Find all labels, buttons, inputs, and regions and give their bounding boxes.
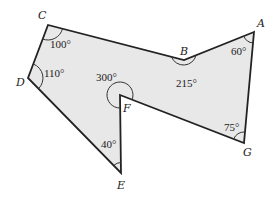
angle-label-a: 60° <box>231 45 246 57</box>
vertex-label-b: B <box>179 45 188 58</box>
vertex-label-a: A <box>256 17 265 30</box>
polygon-diagram: A B C D E F G 60° 215° 100° 110° 40° 300… <box>0 0 278 198</box>
vertex-label-e: E <box>116 179 125 192</box>
angle-label-e: 40° <box>101 138 116 150</box>
vertex-label-f: F <box>122 102 131 115</box>
vertex-label-d: D <box>15 76 25 89</box>
angle-label-b: 215° <box>176 77 197 89</box>
angle-label-f: 300° <box>96 71 117 83</box>
vertex-label-g: G <box>243 146 252 159</box>
vertex-label-c: C <box>38 9 47 22</box>
angle-label-g: 75° <box>224 121 239 133</box>
angle-label-d: 110° <box>44 67 65 79</box>
angle-label-c: 100° <box>50 38 71 50</box>
